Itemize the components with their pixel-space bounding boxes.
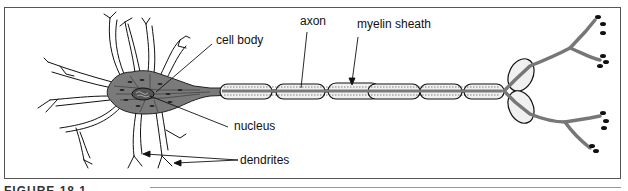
axon-label: axon	[300, 15, 326, 27]
myelin-sheath-leader	[352, 37, 358, 82]
myelin-sheath-label: myelin sheath	[357, 18, 431, 30]
caption-rule	[150, 187, 621, 188]
cell-body-label: cell body	[216, 34, 263, 46]
dendrites-leader-1	[145, 154, 238, 160]
figure-caption: FIGURE 18.1	[4, 185, 87, 191]
axon-leader	[301, 32, 307, 88]
nucleus-label: nucleus	[234, 120, 275, 132]
axon-terminal	[503, 15, 609, 153]
neuron-diagram	[0, 0, 628, 191]
figure-caption-text: FIGURE 18.1	[4, 185, 87, 191]
dendrites-label: dendrites	[240, 154, 289, 166]
dendrites-leader-2	[176, 160, 238, 163]
